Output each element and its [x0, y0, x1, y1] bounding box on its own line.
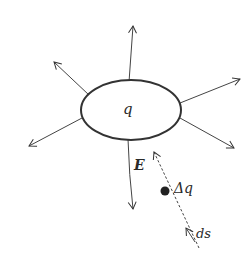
field-label: E: [133, 157, 145, 173]
field-line-upper-left: [54, 62, 89, 95]
electric-field-diagram: q E Δq ds: [0, 0, 247, 266]
small-charge-dot: [161, 187, 170, 196]
field-line-right: [180, 118, 234, 148]
charge-label: q: [123, 100, 133, 118]
field-line-left: [29, 118, 82, 146]
path-element-label: ds: [196, 226, 211, 241]
field-line-upper-right: [180, 79, 240, 103]
small-charge-label: Δq: [173, 180, 193, 196]
path-element-dashed-line: [154, 152, 199, 248]
field-line-up: [129, 26, 133, 82]
field-line-down: [128, 139, 133, 209]
